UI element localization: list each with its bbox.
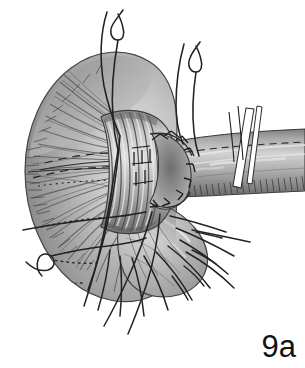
figure-caption-label: 9a — [262, 331, 296, 362]
surgical-illustration-canvas: Surgical anastomosis illustration, figur… — [0, 0, 305, 368]
figure-container: Surgical anastomosis illustration, figur… — [0, 0, 305, 368]
